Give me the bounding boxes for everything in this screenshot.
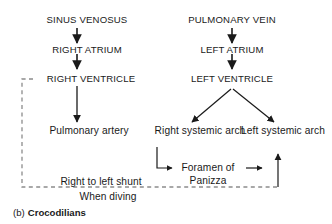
node-right-systemic-arch: Right systemic arch <box>155 126 246 136</box>
edge-right-arch-to-foramen <box>157 147 172 168</box>
node-sinus-venosus: SINUS VENOSUS <box>47 15 128 25</box>
figure-caption-title: Crocodilians <box>28 207 86 218</box>
node-right-ventricle: RIGHT VENTRICLE <box>47 74 135 84</box>
node-pulmonary-artery: Pulmonary artery <box>49 126 128 136</box>
node-left-systemic-arch: Left systemic arch <box>241 126 325 136</box>
edge-left-ventricle-to-left-systemic-arch <box>233 89 274 122</box>
node-foramen-of-panizza-line2: Panizza <box>190 176 227 186</box>
node-left-ventricle: LEFT VENTRICLE <box>191 74 273 84</box>
shunt-label: Right to left shunt <box>60 177 141 187</box>
diagram-connectors <box>0 0 332 224</box>
edge-left-ventricle-to-right-systemic-arch <box>192 89 231 122</box>
node-pulmonary-vein: PULMONARY VEIN <box>188 15 276 25</box>
node-right-atrium: RIGHT ATRIUM <box>52 45 122 55</box>
node-foramen-of-panizza-line1: Foramen of <box>181 163 234 173</box>
figure-caption-prefix: (b) <box>13 207 25 218</box>
shunt-condition-label: When diving <box>79 192 136 202</box>
node-left-atrium: LEFT ATRIUM <box>200 45 263 55</box>
crocodilian-circulation-diagram: SINUS VENOSUS RIGHT ATRIUM RIGHT VENTRIC… <box>0 0 332 224</box>
figure-caption: (b)Crocodilians <box>13 208 86 218</box>
